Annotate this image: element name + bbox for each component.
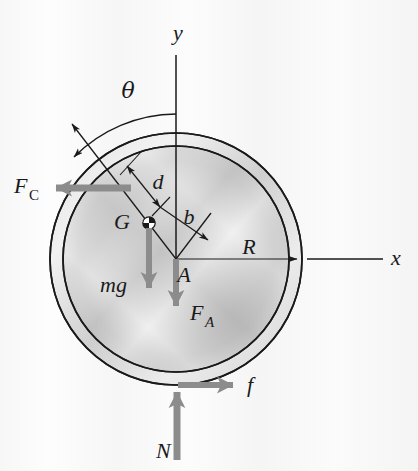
figure-container: y x θ F C mg F A f N R d b G A — [0, 0, 418, 471]
dimension-label-b: b — [184, 204, 195, 229]
force-label-Fc-sub: C — [29, 187, 39, 203]
point-label-G: G — [114, 209, 130, 234]
dimension-label-R: R — [241, 234, 256, 259]
center-of-gravity-marker — [143, 217, 155, 229]
force-label-Fa-sub: A — [204, 314, 215, 330]
force-label-mg: mg — [100, 272, 127, 297]
point-label-A: A — [175, 262, 191, 287]
axis-label-y: y — [171, 20, 183, 45]
axis-label-x: x — [390, 245, 401, 270]
angle-label-theta: θ — [121, 78, 134, 103]
free-body-diagram: y x θ F C mg F A f N R d b G A — [0, 0, 418, 471]
force-label-Fc-base: F — [13, 173, 28, 198]
dimension-label-d: d — [153, 169, 165, 194]
force-label-Fa-base: F — [189, 300, 204, 325]
force-label-N: N — [155, 438, 172, 463]
